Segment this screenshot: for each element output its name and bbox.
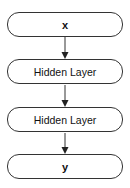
node-input-x: x <box>7 12 123 37</box>
node-output-y: y <box>7 154 123 179</box>
edge-hidden2-to-y <box>62 133 69 154</box>
node-label: x <box>62 19 68 31</box>
node-label: y <box>62 161 68 173</box>
node-hidden-layer-1: Hidden Layer <box>7 59 123 84</box>
node-hidden-layer-2: Hidden Layer <box>7 107 123 132</box>
node-label: Hidden Layer <box>34 66 96 78</box>
arrowhead-icon <box>62 52 69 59</box>
edge-hidden1-to-hidden2 <box>62 85 69 107</box>
arrowhead-icon <box>62 147 69 154</box>
node-label: Hidden Layer <box>34 114 96 126</box>
arrowhead-icon <box>62 100 69 107</box>
edge-x-to-hidden1 <box>62 37 69 59</box>
